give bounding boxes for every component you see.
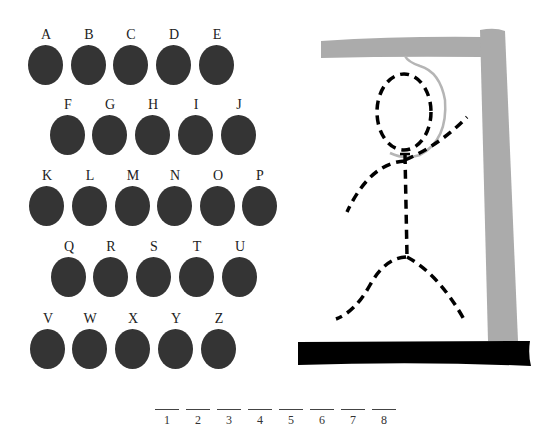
blank-underline [372, 409, 396, 410]
hangman-head [377, 74, 431, 150]
word-blank-2: 2 [186, 406, 212, 426]
blank-number: 5 [279, 413, 303, 427]
blank-number: 3 [217, 413, 241, 427]
blank-underline [310, 409, 334, 410]
blank-number: 8 [372, 413, 396, 427]
hangman-body [405, 155, 407, 256]
blank-number: 6 [310, 413, 334, 427]
blank-underline [217, 409, 241, 410]
hangman-right-arm [405, 117, 467, 160]
blank-number: 7 [341, 413, 365, 427]
word-blank-5: 5 [279, 406, 305, 426]
word-blank-3: 3 [217, 406, 243, 426]
gallows-drawing [0, 0, 557, 427]
gallows-post [480, 29, 518, 341]
word-blank-6: 6 [310, 406, 336, 426]
word-blank-7: 7 [341, 406, 367, 426]
gallows-base [298, 341, 531, 366]
word-blank-4: 4 [248, 406, 274, 426]
blank-underline [186, 409, 210, 410]
hangman-right-leg [407, 257, 466, 323]
word-blank-1: 1 [155, 406, 181, 426]
blank-number: 4 [248, 413, 272, 427]
blank-underline [155, 409, 179, 410]
hangman-left-leg [336, 257, 406, 319]
gallows-beam [321, 37, 482, 58]
blank-underline [341, 409, 365, 410]
blank-underline [279, 409, 303, 410]
hangman-left-arm [347, 161, 405, 212]
blank-underline [248, 409, 272, 410]
blank-number: 1 [155, 413, 179, 427]
word-blank-8: 8 [372, 406, 398, 426]
blank-number: 2 [186, 413, 210, 427]
